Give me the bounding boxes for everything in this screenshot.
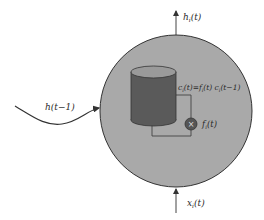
prev-hidden-label: h(t−1) (45, 102, 75, 112)
svg-text:×: × (188, 120, 195, 129)
output-label: hi(t) (183, 12, 202, 23)
forget-gate-label: fi(t) (201, 119, 217, 130)
multiply-gate-icon: × (185, 118, 197, 130)
lstm-cell-diagram: × hi(t) xi(t) h(t−1) ci(t)=fi(t) ci(t−1)… (0, 0, 264, 220)
memory-cylinder-icon (131, 66, 176, 126)
input-label: xi(t) (187, 198, 205, 209)
cell-state-equation: ci(t)=fi(t) ci(t−1) (178, 83, 240, 93)
